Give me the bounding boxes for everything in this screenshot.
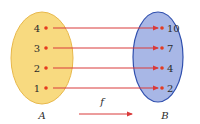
set-a-element-1: 1: [34, 83, 40, 94]
set-b-dot-4: [160, 66, 164, 70]
set-a-dot-3: [44, 46, 48, 50]
set-a-dot-1: [44, 86, 48, 90]
set-b-dot-10: [160, 26, 164, 30]
set-b-dot-2: [160, 86, 164, 90]
set-b-element-7: 7: [167, 43, 173, 54]
set-b-element-4: 4: [167, 63, 173, 74]
set-b-label: B: [160, 110, 168, 121]
mapping-diagram: 4 3 2 1 10 7 4 2 A B f: [0, 0, 200, 124]
set-b-element-2: 2: [167, 83, 173, 94]
set-a-element-3: 3: [34, 43, 40, 54]
set-b-element-10: 10: [167, 23, 180, 34]
set-b-dot-7: [160, 46, 164, 50]
set-a-dot-4: [44, 26, 48, 30]
function-label: f: [99, 96, 106, 107]
set-a-ellipse: [11, 12, 73, 104]
set-a-label: A: [37, 110, 45, 121]
set-a-element-4: 4: [34, 23, 40, 34]
set-a-dot-2: [44, 66, 48, 70]
set-a-element-2: 2: [34, 63, 40, 74]
